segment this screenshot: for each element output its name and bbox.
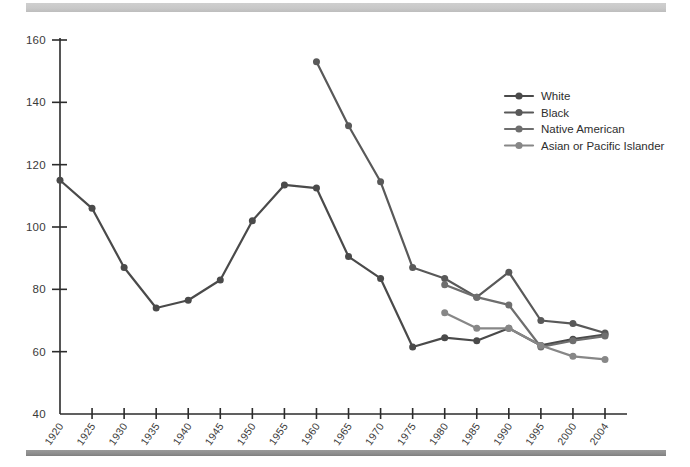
data-point bbox=[505, 325, 512, 332]
legend-marker-dot bbox=[515, 92, 522, 99]
x-tick-label: 1975 bbox=[394, 420, 418, 447]
data-point bbox=[185, 297, 192, 304]
chart-legend: WhiteBlackNative AmericanAsian or Pacifi… bbox=[505, 90, 665, 152]
series-asian-or-pacific-islander bbox=[441, 309, 608, 363]
data-point bbox=[602, 356, 609, 363]
x-tick-label: 1995 bbox=[523, 420, 547, 447]
x-tick-label: 1930 bbox=[106, 420, 130, 447]
data-point bbox=[602, 333, 609, 340]
data-point bbox=[473, 294, 480, 301]
series-line bbox=[60, 180, 605, 347]
data-point bbox=[345, 253, 352, 260]
data-point bbox=[249, 217, 256, 224]
data-point bbox=[537, 317, 544, 324]
data-point bbox=[441, 275, 448, 282]
data-point bbox=[281, 181, 288, 188]
legend-marker-dot bbox=[515, 125, 522, 132]
data-point bbox=[377, 178, 384, 185]
legend-label: Black bbox=[541, 107, 569, 119]
y-tick-label: 100 bbox=[26, 221, 46, 233]
data-point bbox=[505, 269, 512, 276]
data-point bbox=[153, 305, 160, 312]
data-point bbox=[313, 185, 320, 192]
y-tick-label: 60 bbox=[33, 346, 46, 358]
data-point bbox=[473, 337, 480, 344]
x-tick-label: 1920 bbox=[42, 420, 66, 447]
y-tick-label: 140 bbox=[26, 96, 46, 108]
x-tick-label: 1940 bbox=[170, 420, 194, 447]
x-tick-label: 1985 bbox=[458, 420, 482, 447]
x-tick-label: 1935 bbox=[138, 420, 162, 447]
x-tick-label: 2000 bbox=[555, 420, 579, 447]
x-tick-label: 2004 bbox=[587, 420, 611, 447]
data-point bbox=[409, 343, 416, 350]
data-point bbox=[537, 342, 544, 349]
legend-label: Native American bbox=[541, 123, 625, 135]
legend-label: White bbox=[541, 90, 570, 102]
legend-label: Asian or Pacific Islander bbox=[541, 140, 665, 152]
x-tick-label: 1925 bbox=[74, 420, 98, 447]
x-tick-label: 1945 bbox=[202, 420, 226, 447]
legend-marker-dot bbox=[515, 142, 522, 149]
data-point bbox=[569, 320, 576, 327]
series-line bbox=[316, 62, 605, 333]
data-point bbox=[409, 264, 416, 271]
x-tick-label: 1980 bbox=[426, 420, 450, 447]
x-tick-label: 1965 bbox=[330, 420, 354, 447]
data-point bbox=[345, 122, 352, 129]
series-white bbox=[57, 177, 609, 351]
x-tick-label: 1970 bbox=[362, 420, 386, 447]
legend-marker-dot bbox=[515, 109, 522, 116]
y-tick-label: 40 bbox=[33, 408, 46, 420]
y-axis: 406080100120140160 bbox=[26, 34, 67, 420]
series-container bbox=[57, 58, 609, 363]
x-tick-label: 1990 bbox=[491, 420, 515, 447]
data-point bbox=[441, 334, 448, 341]
data-point bbox=[473, 325, 480, 332]
y-tick-label: 80 bbox=[33, 283, 46, 295]
data-point bbox=[505, 301, 512, 308]
y-tick-label: 120 bbox=[26, 159, 46, 171]
data-point bbox=[121, 264, 128, 271]
data-point bbox=[89, 205, 96, 212]
data-point bbox=[441, 309, 448, 316]
data-point bbox=[569, 337, 576, 344]
data-point bbox=[569, 353, 576, 360]
data-point bbox=[57, 177, 64, 184]
data-point bbox=[441, 281, 448, 288]
x-tick-label: 1960 bbox=[298, 420, 322, 447]
series-line bbox=[445, 313, 605, 360]
data-point bbox=[217, 276, 224, 283]
x-tick-label: 1955 bbox=[266, 420, 290, 447]
x-axis: 1920192519301935194019451950195519601965… bbox=[42, 408, 627, 447]
y-tick-label: 160 bbox=[26, 34, 46, 46]
line-chart-plot: 406080100120140160 192019251930193519401… bbox=[0, 0, 690, 467]
data-point bbox=[313, 58, 320, 65]
data-point bbox=[377, 275, 384, 282]
chart-figure: 406080100120140160 192019251930193519401… bbox=[0, 0, 690, 467]
x-tick-label: 1950 bbox=[234, 420, 258, 447]
